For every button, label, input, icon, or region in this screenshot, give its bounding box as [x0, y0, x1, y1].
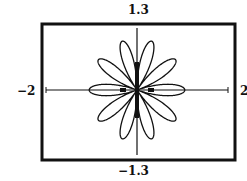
center-bar: [135, 62, 139, 118]
center-dot-left: [120, 88, 126, 92]
plot-area: [0, 0, 247, 181]
center-dot-right: [148, 88, 154, 92]
